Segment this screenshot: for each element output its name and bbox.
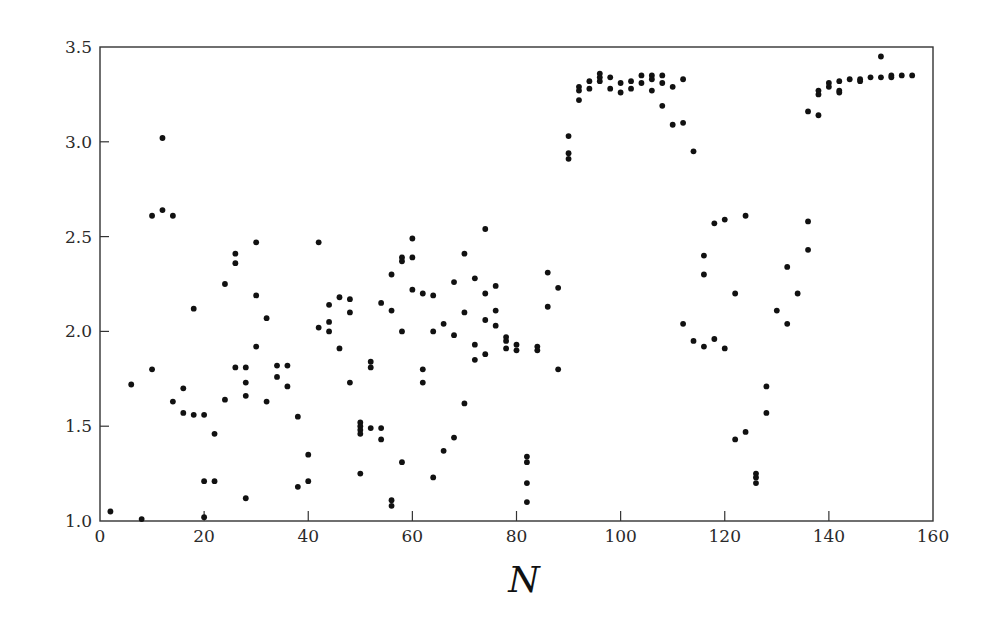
data-point (378, 425, 384, 431)
data-point (566, 156, 572, 162)
data-point (243, 393, 249, 399)
y-tick-label: 2.0 (65, 321, 92, 341)
data-point (722, 346, 728, 352)
data-point (597, 78, 603, 84)
data-point (732, 437, 738, 443)
data-point (482, 226, 488, 232)
data-point (451, 332, 457, 338)
data-point (534, 347, 540, 353)
data-point (108, 509, 114, 515)
data-point (232, 260, 238, 266)
data-point (232, 365, 238, 371)
data-point (399, 258, 405, 264)
data-point (847, 76, 853, 82)
data-point (191, 306, 197, 312)
data-point (139, 516, 145, 522)
data-point (212, 431, 218, 437)
data-point (316, 239, 322, 245)
data-point (274, 363, 280, 369)
data-point (316, 325, 322, 331)
data-point (628, 86, 634, 92)
data-point (191, 412, 197, 418)
data-point (639, 73, 645, 79)
data-point (472, 342, 478, 348)
data-point (482, 351, 488, 357)
data-point (659, 103, 665, 109)
data-point (493, 283, 499, 289)
data-points (108, 54, 916, 522)
x-tick-label: 40 (297, 526, 319, 546)
data-point (399, 459, 405, 465)
data-point (607, 74, 613, 80)
data-point (545, 270, 551, 276)
data-point (784, 264, 790, 270)
data-point (451, 279, 457, 285)
data-point (264, 399, 270, 405)
data-point (555, 285, 561, 291)
data-point (253, 292, 259, 298)
data-point (243, 365, 249, 371)
data-point (326, 302, 332, 308)
data-point (472, 357, 478, 363)
data-point (337, 346, 343, 352)
data-point (160, 207, 166, 213)
data-point (170, 213, 176, 219)
data-point (222, 397, 228, 403)
data-point (805, 219, 811, 225)
x-tick-label: 100 (604, 526, 636, 546)
data-point (430, 329, 436, 335)
data-point (524, 454, 530, 460)
data-point (764, 383, 770, 389)
data-point (243, 380, 249, 386)
data-point (347, 296, 353, 302)
data-point (274, 374, 280, 380)
data-point (503, 346, 509, 352)
data-point (368, 365, 374, 371)
data-point (399, 329, 405, 335)
data-point (628, 78, 634, 84)
data-point (701, 344, 707, 350)
data-point (722, 217, 728, 223)
data-point (170, 399, 176, 405)
data-point (753, 474, 759, 480)
data-point (420, 291, 426, 297)
data-point (378, 300, 384, 306)
data-point (357, 471, 363, 477)
data-point (774, 308, 780, 314)
data-point (482, 317, 488, 323)
data-point (691, 148, 697, 154)
y-tick-label: 3.0 (65, 132, 92, 152)
data-point (441, 448, 447, 454)
data-point (493, 308, 499, 314)
data-point (586, 86, 592, 92)
data-point (389, 497, 395, 503)
data-point (285, 383, 291, 389)
data-point (180, 385, 186, 391)
data-point (389, 272, 395, 278)
x-tick-label: 60 (402, 526, 424, 546)
data-point (389, 503, 395, 509)
x-axis-ticks: 020406080100120140160 (95, 511, 950, 546)
y-tick-label: 2.5 (65, 227, 92, 247)
data-point (368, 425, 374, 431)
data-point (232, 251, 238, 257)
data-point (149, 213, 155, 219)
data-point (243, 495, 249, 501)
x-tick-label: 0 (95, 526, 106, 546)
data-point (420, 380, 426, 386)
data-point (691, 338, 697, 344)
data-point (212, 478, 218, 484)
data-point (909, 73, 915, 79)
data-point (566, 133, 572, 139)
data-point (826, 84, 832, 90)
data-point (222, 281, 228, 287)
data-point (857, 78, 863, 84)
scatter-chart: 1.01.52.02.53.03.5 020406080100120140160… (0, 0, 984, 622)
data-point (545, 304, 551, 310)
data-point (805, 109, 811, 115)
data-point (326, 319, 332, 325)
data-point (670, 84, 676, 90)
data-point (659, 73, 665, 79)
data-point (795, 291, 801, 297)
data-point (201, 412, 207, 418)
